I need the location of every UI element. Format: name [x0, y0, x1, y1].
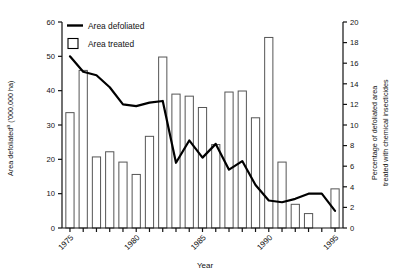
bar-1975 — [66, 113, 74, 228]
bar-1989 — [251, 118, 259, 228]
right-tick-label-16: 16 — [350, 59, 358, 68]
left-tick-label-10: 10 — [47, 189, 55, 198]
right-axis-title-line2: treated with chemical insecticides — [381, 79, 390, 186]
bar-1988 — [238, 91, 246, 228]
bar-1985 — [198, 107, 206, 228]
right-tick-label-0: 0 — [350, 224, 354, 233]
left-tick-label-0: 0 — [51, 224, 55, 233]
bar-1993 — [304, 214, 312, 228]
legend-square-marker — [68, 39, 78, 49]
legend-label-area-treated: Area treated — [88, 39, 134, 49]
bar-1984 — [185, 96, 193, 228]
bar-1976 — [79, 70, 87, 228]
left-tick-label-60: 60 — [47, 18, 55, 27]
right-tick-label-10: 10 — [350, 121, 358, 130]
right-tick-label-8: 8 — [350, 141, 354, 150]
bar-1982 — [159, 57, 167, 228]
right-tick-label-2: 2 — [350, 203, 354, 212]
left-axis-title: Area defoliateda ('000,000 ha) — [5, 81, 15, 176]
bar-1981 — [145, 136, 153, 228]
bar-1979 — [119, 162, 127, 228]
right-tick-label-20: 20 — [350, 18, 358, 27]
bar-1980 — [132, 174, 140, 228]
legend-label-area-defoliated: Area defoliated — [88, 21, 145, 31]
bar-1986 — [212, 145, 220, 228]
left-tick-label-20: 20 — [47, 155, 55, 164]
left-tick-label-40: 40 — [47, 86, 55, 95]
bar-1987 — [225, 92, 233, 228]
bar-1991 — [278, 162, 286, 228]
right-tick-label-12: 12 — [350, 100, 358, 109]
svg-text:Area defoliateda ('000,000 ha): Area defoliateda ('000,000 ha) — [5, 81, 15, 176]
defoliation-chart: 0102030405060 02468101214161820 19751980… — [0, 0, 399, 279]
bar-1977 — [92, 157, 100, 228]
right-axis-title-line1: Percentage of defoliated area — [370, 86, 379, 180]
chart-figure: 0102030405060 02468101214161820 19751980… — [0, 0, 399, 279]
left-axis-title-main: Area defoliated — [6, 128, 15, 176]
x-axis-title: Year — [197, 261, 214, 270]
bar-1978 — [106, 152, 114, 228]
left-tick-label-50: 50 — [47, 52, 55, 61]
left-tick-label-30: 30 — [47, 121, 55, 130]
right-tick-label-6: 6 — [350, 162, 354, 171]
bar-1992 — [291, 204, 299, 228]
right-tick-label-4: 4 — [350, 183, 354, 192]
right-tick-label-18: 18 — [350, 38, 358, 47]
left-axis-title-units: ('000,000 ha) — [6, 81, 15, 123]
right-tick-label-14: 14 — [350, 80, 358, 89]
